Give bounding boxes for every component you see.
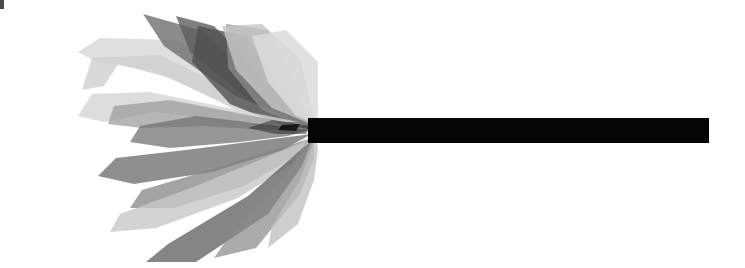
figure-root xyxy=(0,0,745,268)
horizontal-shaft xyxy=(308,118,709,143)
blade-fan-illustration xyxy=(0,0,745,268)
corner-registration-mark xyxy=(0,0,4,9)
